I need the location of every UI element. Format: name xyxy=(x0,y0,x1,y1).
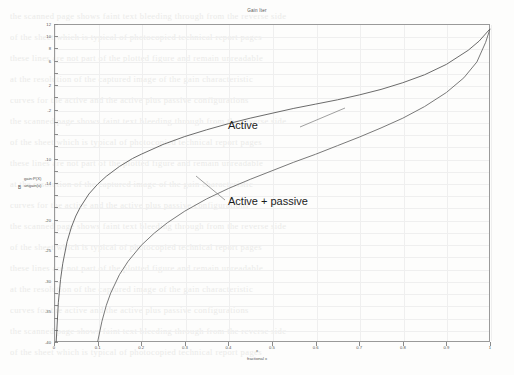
annotation-leader-line xyxy=(196,176,225,200)
curve-active xyxy=(56,29,490,342)
chart-root: Gain Iter 00.10.20.30.40.50.60.70.80.91 … xyxy=(0,0,514,375)
curve-annotation-active-passive: Active + passive xyxy=(228,195,308,207)
curve-layer xyxy=(0,0,514,375)
annotation-leader-line xyxy=(300,108,345,127)
curve-annotation-active: Active xyxy=(228,119,258,131)
curve-active-passive xyxy=(98,29,490,342)
